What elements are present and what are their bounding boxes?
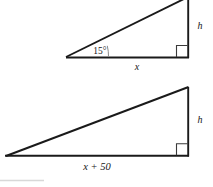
bottom-triangle-group: x + 50 h [5, 87, 203, 172]
height-label-h-top: h [198, 20, 203, 31]
base-label-x: x [134, 61, 140, 72]
top-right-angle-marker [177, 46, 188, 58]
angle-label-15deg: 15° [93, 46, 107, 56]
bottom-right-angle-marker [177, 144, 188, 155]
bottom-triangle-hypotenuse [6, 87, 189, 156]
figure-canvas: 15° x h x + 50 h [0, 0, 213, 187]
height-label-h-bottom: h [198, 114, 203, 125]
top-triangle-group: 15° x h [66, 0, 203, 72]
geometry-figure: 15° x h x + 50 h [0, 0, 213, 187]
base-label-x-plus-50: x + 50 [82, 161, 111, 172]
top-triangle-hypotenuse [66, 0, 190, 57]
top-angle-arc [107, 46, 108, 57]
